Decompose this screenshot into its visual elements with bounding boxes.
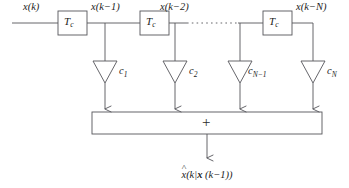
delay-block-2-label: Tc xyxy=(146,16,155,27)
delay-block-n-label: Tc xyxy=(269,16,278,27)
summer-plus-symbol: + xyxy=(202,115,210,130)
coefficient-label-2: c2 xyxy=(189,66,197,77)
hat-accent-icon: ˄ xyxy=(181,163,186,172)
delay-block-1-label: Tc xyxy=(64,16,73,27)
tap-signal-label-1: x(k−1) xyxy=(91,2,120,13)
output-rest-b: (k−1)) xyxy=(205,169,233,180)
amplifier-triangle-1 xyxy=(93,61,117,83)
coefficient-label-n-1: cN−1 xyxy=(248,66,267,77)
figure-canvas: x(k) Tc x(k−1) Tc x(k−2) Tc x(k−N) c1 c2… xyxy=(0,0,349,188)
coefficient-label-n: cN xyxy=(327,66,337,77)
output-bold-x: x xyxy=(197,169,202,180)
output-hat-group: ˄x xyxy=(181,170,186,181)
output-rest-a: (k| xyxy=(186,169,197,180)
amplifier-triangle-n xyxy=(301,61,325,83)
tap-signal-label-2: x(k−2) xyxy=(160,2,189,13)
input-signal-label: x(k) xyxy=(23,2,39,13)
coefficient-label-1: c1 xyxy=(119,66,127,77)
amplifier-triangle-2 xyxy=(163,61,187,83)
output-signal-label: ˄x(k|x (k−1)) xyxy=(152,170,262,181)
block-diagram-graphic xyxy=(0,0,349,188)
tap-signal-label-n: x(k−N) xyxy=(296,2,326,13)
